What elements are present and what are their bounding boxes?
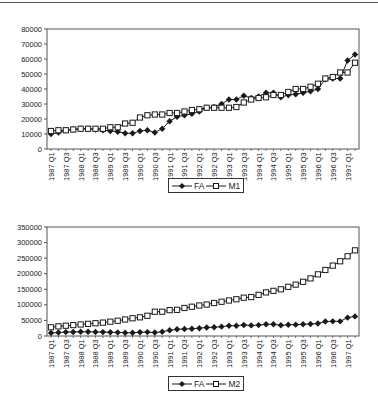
x-tick-label: 1992 Q1: [195, 339, 204, 368]
data-point-m2: [352, 248, 357, 253]
legend-item-fa: FA: [172, 181, 204, 191]
series-line-m2: [51, 250, 355, 327]
data-point-m2: [63, 323, 68, 328]
data-point-m2: [115, 318, 120, 323]
legend-item-fa: FA: [172, 379, 204, 389]
data-point-fa: [226, 323, 232, 329]
data-point-m2: [256, 292, 261, 297]
data-point-m2: [123, 317, 128, 322]
data-point-m2: [167, 308, 172, 313]
data-point-m2: [241, 295, 246, 300]
data-point-fa: [292, 321, 298, 327]
legend-label-fa: FA: [194, 181, 204, 191]
data-point-fa: [152, 329, 158, 335]
filled-diamond-icon: [172, 182, 192, 190]
data-point-fa: [218, 323, 224, 329]
x-tick-label: 1987 Q1: [47, 339, 56, 368]
data-point-fa: [204, 324, 210, 330]
data-point-fa: [55, 329, 61, 335]
data-point-fa: [330, 318, 336, 324]
legend-item-m1: M1: [206, 181, 240, 191]
data-point-fa: [255, 322, 261, 328]
data-point-m2: [286, 284, 291, 289]
data-point-fa: [115, 329, 121, 335]
data-point-m2: [345, 254, 350, 259]
y-tick-label: 0: [38, 332, 42, 341]
x-tick-label: 1987 Q3: [62, 339, 71, 368]
data-point-fa: [129, 330, 135, 336]
data-point-fa: [307, 321, 313, 327]
x-tick-label: 1995 Q3: [299, 339, 308, 368]
data-point-fa: [137, 329, 143, 335]
x-tick-label: 1991 Q1: [166, 339, 175, 368]
data-point-fa: [100, 329, 106, 335]
data-point-m2: [338, 259, 343, 264]
data-point-fa: [122, 330, 128, 336]
y-tick-label: 50000: [21, 316, 42, 325]
data-point-fa: [233, 323, 239, 329]
data-point-fa: [196, 325, 202, 331]
data-point-fa: [181, 326, 187, 332]
data-point-fa: [144, 329, 150, 335]
data-point-fa: [241, 322, 247, 328]
data-point-m2: [130, 316, 135, 321]
data-point-m2: [308, 276, 313, 281]
data-point-fa: [159, 329, 165, 335]
x-tick-label: 1990 Q1: [136, 339, 145, 368]
data-point-m2: [263, 290, 268, 295]
data-point-fa: [77, 329, 83, 335]
data-point-m2: [189, 304, 194, 309]
data-point-fa: [92, 329, 98, 335]
hollow-square-icon: [206, 380, 226, 388]
legend-chart1: FA M1: [168, 178, 244, 193]
data-point-fa: [352, 313, 358, 319]
x-tick-label: 1991 Q3: [180, 339, 189, 368]
y-tick-label: 200000: [17, 269, 42, 278]
legend-label-fa: FA: [194, 379, 204, 389]
x-tick-label: 1994 Q1: [255, 339, 264, 368]
data-point-m2: [48, 325, 53, 330]
y-tick-label: 150000: [17, 285, 42, 294]
data-point-fa: [337, 318, 343, 324]
data-point-fa: [48, 330, 54, 336]
data-point-m2: [234, 297, 239, 302]
x-tick-label: 1989 Q3: [121, 339, 130, 368]
data-point-m2: [182, 305, 187, 310]
data-point-fa: [70, 329, 76, 335]
data-point-m2: [100, 320, 105, 325]
data-point-fa: [300, 321, 306, 327]
data-point-m2: [145, 313, 150, 318]
data-point-fa: [278, 322, 284, 328]
x-tick-label: 1994 Q3: [269, 339, 278, 368]
data-point-m2: [71, 323, 76, 328]
x-tick-label: 1989 Q1: [106, 339, 115, 368]
legend-label-m2: M2: [228, 379, 240, 389]
legend-item-m2: M2: [206, 379, 240, 389]
x-tick-label: 1993 Q3: [240, 339, 249, 368]
data-point-m2: [108, 319, 113, 324]
data-point-m2: [315, 272, 320, 277]
y-tick-label: 300000: [17, 238, 42, 247]
data-point-m2: [93, 321, 98, 326]
data-point-fa: [263, 321, 269, 327]
x-tick-label: 1996 Q3: [329, 339, 338, 368]
data-point-m2: [271, 288, 276, 293]
data-point-m2: [330, 263, 335, 268]
data-point-fa: [248, 322, 254, 328]
data-point-m2: [278, 287, 283, 292]
data-point-fa: [107, 329, 113, 335]
filled-diamond-icon: [172, 380, 192, 388]
data-point-fa: [270, 321, 276, 327]
x-tick-label: 1988 Q1: [77, 339, 86, 368]
data-point-fa: [85, 329, 91, 335]
y-tick-label: 250000: [17, 254, 42, 263]
data-point-m2: [323, 267, 328, 272]
data-point-fa: [315, 320, 321, 326]
data-point-m2: [293, 282, 298, 287]
x-tick-label: 1996 Q1: [314, 339, 323, 368]
data-point-m2: [152, 309, 157, 314]
data-point-fa: [174, 326, 180, 332]
x-tick-label: 1993 Q1: [225, 339, 234, 368]
data-point-m2: [137, 315, 142, 320]
data-point-m2: [85, 321, 90, 326]
